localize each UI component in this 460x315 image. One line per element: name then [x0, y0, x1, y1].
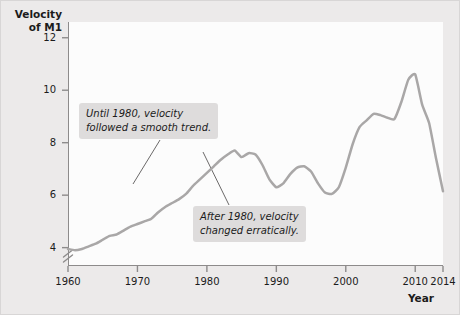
y-tick-label-4: 4 [28, 242, 56, 253]
y-tick-label-12: 12 [28, 32, 56, 43]
y-axis-break-icon [64, 250, 73, 262]
y-axis-title: Velocity of M1 [6, 8, 62, 33]
y-tick-label-10: 10 [28, 84, 56, 95]
annotation-smooth-trend: Until 1980, velocity followed a smooth t… [79, 103, 218, 139]
x-axis-title: Year [398, 292, 444, 305]
y-tick-label-6: 6 [28, 189, 56, 200]
y-tick-label-8: 8 [28, 137, 56, 148]
x-tick-label-1980: 1980 [194, 276, 219, 287]
x-tick-label-2000: 2000 [333, 276, 358, 287]
velocity-of-m1-chart-figure: Velocity of M1 Year 4681012 196019701980… [0, 0, 460, 315]
x-tick-label-1970: 1970 [125, 276, 150, 287]
leader-line-erratic [203, 152, 229, 205]
annotation-leader-lines [133, 140, 229, 205]
annotation-erratic: After 1980, velocity changed erratically… [193, 206, 306, 242]
chart-svg [0, 0, 460, 315]
leader-line-smooth-trend [133, 140, 160, 184]
y-axis-ticks [62, 38, 68, 248]
x-tick-label-1990: 1990 [264, 276, 289, 287]
x-tick-label-2010: 2010 [402, 276, 427, 287]
x-tick-label-1960: 1960 [55, 276, 80, 287]
x-tick-label-2014: 2014 [430, 276, 455, 287]
x-axis-ticks [68, 266, 443, 272]
